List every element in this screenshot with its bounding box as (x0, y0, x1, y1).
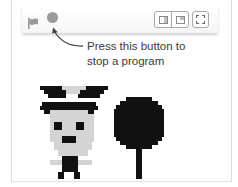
callout-text: Press this button to stop a program (87, 39, 185, 69)
character-sprite[interactable] (40, 86, 110, 180)
callout-line-1: Press this button to (87, 39, 185, 54)
large-stage-button[interactable] (171, 11, 189, 28)
green-flag-icon[interactable] (28, 14, 38, 25)
small-stage-button[interactable] (154, 11, 172, 28)
large-stage-icon (176, 16, 185, 24)
callout-arrow-icon (50, 27, 86, 49)
full-screen-icon (196, 15, 205, 24)
callout-line-2: stop a program (87, 54, 185, 69)
stop-button[interactable] (47, 12, 58, 23)
full-screen-button[interactable] (192, 11, 209, 28)
tree-sprite[interactable] (114, 97, 166, 181)
small-stage-icon (159, 16, 168, 24)
